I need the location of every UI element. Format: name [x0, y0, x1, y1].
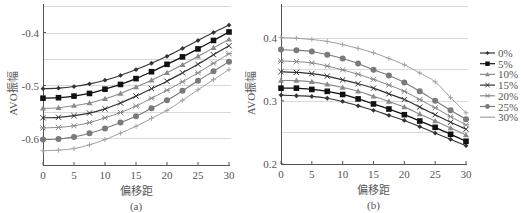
square-marker-icon [371, 101, 377, 107]
y-axis-label: AVO振幅 [6, 71, 19, 115]
plus-marker-icon [325, 39, 330, 44]
x-tick-label: 0 [278, 168, 284, 180]
plus-marker-icon [103, 137, 108, 142]
asterisk-marker-icon [355, 72, 361, 77]
plus-marker-icon [149, 116, 154, 121]
x-tick-label: 5 [309, 168, 315, 180]
x-marker-icon [133, 94, 138, 99]
square-marker-icon [87, 91, 93, 97]
circle-marker-icon [180, 88, 186, 94]
circle-marker-icon [40, 137, 46, 143]
circle-marker-icon [118, 120, 124, 126]
plus-marker-icon [279, 35, 284, 40]
x-tick-label: 10 [100, 169, 112, 181]
triangle-marker-icon [195, 53, 201, 58]
diamond-marker-icon [387, 113, 392, 118]
asterisk-marker-icon [149, 96, 155, 101]
square-marker-icon [118, 82, 124, 88]
x-axis-label: 偏移距 [120, 184, 153, 197]
asterisk-marker-icon [195, 70, 201, 75]
plus-marker-icon [72, 146, 77, 151]
diamond-marker-icon [134, 67, 139, 72]
square-marker-icon [211, 38, 217, 44]
x-marker-icon [463, 127, 468, 132]
x-tick-label: 25 [193, 169, 205, 181]
square-marker-icon [355, 96, 361, 102]
diamond-marker-icon [103, 78, 108, 83]
x-tick-label: 15 [131, 169, 143, 181]
circle-marker-icon [355, 61, 361, 67]
x-marker-icon [211, 52, 216, 57]
diamond-marker-icon [309, 94, 314, 99]
square-marker-icon [180, 54, 186, 60]
x-marker-icon [226, 43, 231, 48]
asterisk-marker-icon [324, 63, 330, 68]
asterisk-marker-icon [118, 110, 124, 115]
circle-marker-icon [211, 68, 217, 74]
x-marker-icon [149, 86, 154, 91]
y-tick-label: -0.5 [22, 80, 40, 92]
square-marker-icon [324, 89, 330, 95]
x-tick-label: 5 [71, 169, 77, 181]
square-marker-icon [40, 95, 46, 101]
plus-marker-icon [340, 42, 345, 47]
triangle-marker-icon [180, 62, 186, 67]
circle-marker-icon [463, 116, 469, 122]
circle-marker-icon [417, 88, 423, 94]
asterisk-marker-icon [226, 51, 232, 56]
square-marker-icon [309, 87, 315, 93]
asterisk-marker-icon [371, 77, 377, 82]
square-marker-icon [417, 118, 423, 124]
plus-marker-icon [309, 37, 314, 42]
circle-marker-icon [56, 136, 62, 142]
asterisk-marker-icon [56, 125, 62, 130]
asterisk-marker-icon [164, 88, 170, 93]
legend-item: 30% [480, 111, 518, 123]
diamond-marker-icon [433, 131, 438, 136]
asterisk-marker-icon [133, 104, 139, 109]
plus-marker-icon [417, 70, 422, 75]
asterisk-marker-icon [340, 67, 346, 72]
diamond-marker-icon [72, 84, 77, 89]
plus-marker-icon [134, 124, 139, 129]
circle-marker-icon [386, 73, 392, 79]
diamond-marker-icon [294, 93, 299, 98]
panel-label: (a) [130, 200, 143, 213]
circle-marker-icon [432, 98, 438, 104]
diamond-marker-icon [41, 86, 46, 91]
square-marker-icon [432, 125, 438, 131]
diamond-marker-icon [417, 124, 422, 129]
diamond-marker-icon [325, 96, 330, 101]
x-tick-label: 30 [224, 169, 236, 181]
plus-marker-icon [402, 62, 407, 67]
circle-marker-icon [102, 125, 108, 131]
square-marker-icon [71, 93, 77, 99]
diamond-marker-icon [227, 23, 232, 28]
square-marker-icon [102, 86, 108, 92]
series-15pct [40, 43, 231, 120]
chart-panel-b: 0510152025300.20.30.4偏移距AVO振幅(b) [244, 4, 472, 212]
square-marker-icon [195, 46, 201, 52]
diamond-marker-icon [340, 99, 345, 104]
square-marker-icon [226, 29, 232, 35]
asterisk-marker-icon [102, 115, 108, 120]
circle-marker-icon [448, 107, 454, 113]
circle-marker-icon [226, 59, 232, 65]
series-line [281, 72, 466, 130]
square-marker-icon [56, 95, 62, 101]
diamond-marker-icon [165, 54, 170, 59]
square-marker-icon [294, 85, 300, 91]
square-marker-icon [133, 76, 139, 82]
x-marker-icon [164, 79, 169, 84]
panel-label: (b) [367, 199, 380, 212]
triangle-marker-icon [226, 36, 232, 41]
x-marker-icon [195, 62, 200, 67]
square-marker-icon [278, 85, 284, 91]
y-tick-label: 0.4 [263, 32, 277, 44]
y-axis-label: AVO振幅 [244, 71, 257, 115]
asterisk-marker-icon [87, 120, 93, 125]
asterisk-marker-icon [485, 94, 490, 98]
circle-marker-icon [293, 47, 299, 53]
square-marker-icon [402, 112, 408, 118]
x-tick-label: 0 [40, 169, 46, 181]
